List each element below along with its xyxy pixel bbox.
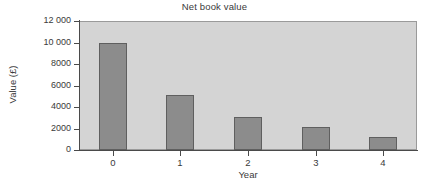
bar [234, 117, 262, 150]
x-axis-tick [248, 151, 249, 156]
y-axis-tick [74, 64, 79, 65]
x-axis-tick-label: 0 [93, 157, 133, 168]
y-axis-title: Value (£) [7, 45, 18, 125]
y-axis-tick-label: 8000 [51, 59, 71, 68]
y-axis-tick [74, 21, 79, 22]
x-axis-tick [383, 151, 384, 156]
x-axis-tick-label: 1 [160, 157, 200, 168]
bar [369, 137, 397, 150]
y-axis-tick [74, 86, 79, 87]
x-axis-tick-label: 4 [363, 157, 403, 168]
x-axis-tick-label: 2 [228, 157, 268, 168]
x-axis-title: Year [79, 169, 417, 180]
y-axis-tick-label: 12 000 [43, 16, 71, 25]
bar [99, 43, 127, 150]
y-axis-line [79, 20, 80, 151]
y-axis-tick [74, 150, 79, 151]
net-book-value-bar-chart: Net book value 0200040006000800010 00012… [0, 0, 429, 184]
x-axis-tick [316, 151, 317, 156]
y-axis-tick [74, 129, 79, 130]
y-axis-tick-label: 0 [66, 145, 71, 154]
x-axis-tick-label: 3 [296, 157, 336, 168]
x-axis-tick [180, 151, 181, 156]
y-axis-tick-label: 2000 [51, 124, 71, 133]
y-axis-tick-label: 10 000 [43, 38, 71, 47]
y-axis-tick-label: 4000 [51, 102, 71, 111]
y-axis-tick [74, 107, 79, 108]
bar [302, 127, 330, 150]
y-axis-tick [74, 43, 79, 44]
x-axis-tick [113, 151, 114, 156]
bar [166, 95, 194, 150]
y-axis-tick-label: 6000 [51, 81, 71, 90]
chart-title: Net book value [0, 1, 429, 12]
